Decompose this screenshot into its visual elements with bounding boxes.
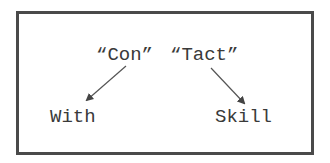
arrows-layer — [0, 0, 330, 163]
arrow-tact-to-skill-icon — [211, 68, 244, 103]
arrow-con-to-with-icon — [87, 66, 126, 100]
